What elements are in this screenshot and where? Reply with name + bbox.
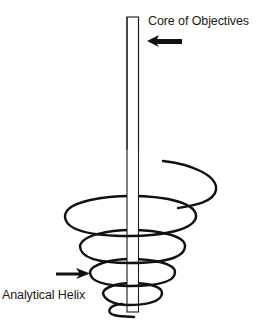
core-of-objectives-label: Core of Objectives	[148, 14, 249, 28]
helix-arrow-icon	[56, 268, 90, 279]
core-column	[127, 17, 139, 312]
helix-diagram	[0, 0, 260, 321]
core-arrow-icon	[147, 35, 182, 47]
analytical-helix-label: Analytical Helix	[2, 288, 85, 302]
